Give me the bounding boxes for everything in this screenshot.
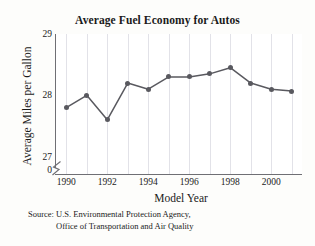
y-tick-label: 29 (43, 29, 53, 39)
y-tick-label: 28 (43, 90, 53, 100)
source-note: Source: U.S. Environmental Protection Ag… (28, 208, 193, 232)
data-point (289, 89, 294, 94)
chart-figure: Average Fuel Economy for Autos Average M… (0, 0, 315, 246)
x-axis-line (55, 174, 302, 175)
data-series-line (56, 34, 302, 175)
data-point (64, 105, 69, 110)
data-point (248, 81, 253, 86)
x-tick-label: 1994 (139, 177, 158, 187)
y-tick-label: 27 (43, 152, 53, 162)
data-point (269, 87, 274, 92)
plot-area (56, 34, 302, 175)
x-tick-label: 1992 (98, 177, 117, 187)
x-tick-label: 1990 (57, 177, 76, 187)
chart-title: Average Fuel Economy for Autos (0, 14, 315, 26)
x-tick-label: 1996 (180, 177, 199, 187)
x-tick-label: 2000 (262, 177, 281, 187)
source-line-2: Office of Transportation and Air Quality (28, 220, 193, 232)
source-line-1: Source: U.S. Environmental Protection Ag… (28, 208, 193, 220)
y-axis-origin-label: 0 (47, 165, 52, 175)
y-axis-title: Average Miles per Gallon (21, 31, 33, 181)
data-point (146, 87, 151, 92)
data-point (125, 81, 130, 86)
x-axis-title: Model Year (56, 192, 306, 204)
x-tick-label: 1998 (221, 177, 240, 187)
data-point (228, 65, 233, 70)
y-axis-line (55, 34, 56, 168)
